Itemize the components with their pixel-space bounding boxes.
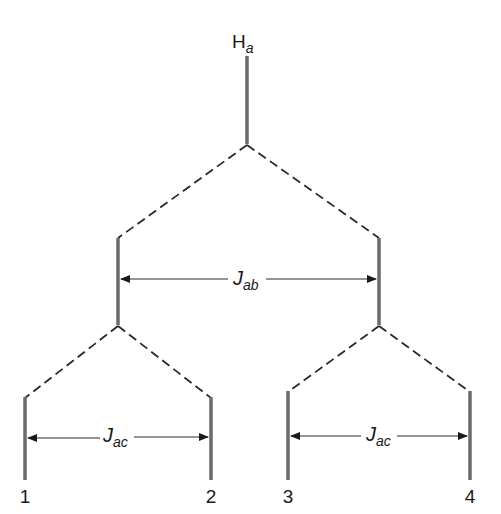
line-label-4: 4	[465, 486, 476, 507]
line-label-3: 3	[283, 486, 294, 507]
line-label-1: 1	[20, 486, 31, 507]
split-ab-left-dash	[118, 145, 247, 238]
split-ab-right-dash	[247, 145, 379, 238]
split-ac-right-a-dash	[288, 326, 379, 392]
splitting-tree-diagram: Ha Jab Jac Jac 1 2 3 4	[0, 0, 501, 514]
jac-left-label: Jac	[102, 424, 128, 450]
split-ac-right-b-dash	[379, 326, 470, 392]
jac-right-label: Jac	[365, 423, 391, 449]
line-label-2: 2	[206, 486, 217, 507]
split-ac-left-a-dash	[25, 326, 118, 398]
top-label-ha: Ha	[232, 31, 254, 56]
split-ac-left-b-dash	[118, 326, 211, 398]
jab-label: Jab	[232, 267, 259, 293]
